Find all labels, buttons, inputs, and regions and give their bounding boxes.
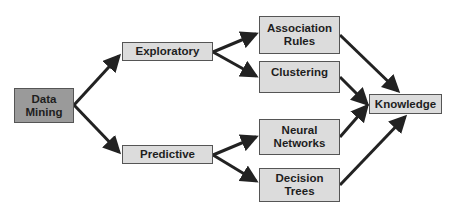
- node-data-mining: Data Mining: [14, 88, 74, 123]
- node-predictive: Predictive: [122, 145, 213, 164]
- node-clustering: Clustering: [259, 61, 340, 93]
- edge-datamining-exploratory: [74, 56, 119, 105]
- node-knowledge: Knowledge: [369, 94, 442, 114]
- node-label: Clustering: [271, 66, 328, 79]
- node-label: Decision Trees: [276, 172, 324, 198]
- edge-association-knowledge: [340, 35, 398, 91]
- edge-predictive-neural: [213, 137, 256, 155]
- edge-datamining-predictive: [74, 105, 119, 152]
- node-label: Exploratory: [136, 45, 200, 58]
- node-label: Neural Networks: [274, 124, 326, 150]
- edge-predictive-decision: [213, 155, 256, 181]
- edge-neural-knowledge: [340, 106, 367, 137]
- node-label: Data Mining: [25, 93, 62, 119]
- node-decision-trees: Decision Trees: [259, 168, 340, 202]
- edge-exploratory-clustering: [213, 52, 256, 76]
- edge-exploratory-association: [213, 34, 256, 52]
- node-association-rules: Association Rules: [259, 16, 340, 54]
- node-label: Predictive: [140, 148, 195, 161]
- edge-clustering-knowledge: [340, 77, 367, 104]
- node-label: Knowledge: [375, 98, 436, 111]
- node-neural-networks: Neural Networks: [259, 119, 340, 155]
- node-exploratory: Exploratory: [122, 42, 213, 61]
- node-label: Association Rules: [267, 22, 332, 48]
